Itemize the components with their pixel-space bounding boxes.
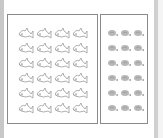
fish-outline-icon — [70, 85, 88, 100]
fish-outline-icon — [70, 25, 88, 40]
shell-icon — [132, 100, 145, 115]
fish-outline-icon — [16, 25, 34, 40]
fish-outline-icon — [70, 100, 88, 115]
left-edge-bar — [0, 0, 4, 138]
shell-icon — [119, 100, 132, 115]
fish-outline-icon — [52, 25, 70, 40]
fish-outline-icon — [52, 85, 70, 100]
shell-icon — [106, 85, 119, 100]
shell-icon — [119, 85, 132, 100]
shell-icon — [106, 70, 119, 85]
fish-panel — [7, 14, 98, 124]
fish-outline-icon — [52, 100, 70, 115]
fish-outline-icon — [16, 100, 34, 115]
shell-icon — [106, 55, 119, 70]
right-margin — [158, 0, 163, 138]
shell-icon — [132, 40, 145, 55]
fish-grid — [16, 25, 88, 115]
fish-outline-icon — [34, 70, 52, 85]
fish-outline-icon — [52, 40, 70, 55]
fish-outline-icon — [70, 55, 88, 70]
shell-icon — [119, 40, 132, 55]
shell-icon — [132, 55, 145, 70]
fish-outline-icon — [16, 70, 34, 85]
shell-panel — [100, 14, 148, 124]
shell-icon — [132, 85, 145, 100]
fish-outline-icon — [16, 40, 34, 55]
shell-icon — [119, 25, 132, 40]
shell-icon — [132, 25, 145, 40]
shell-icon — [119, 55, 132, 70]
shell-icon — [106, 100, 119, 115]
shell-icon — [106, 40, 119, 55]
shell-icon — [106, 25, 119, 40]
fish-outline-icon — [34, 25, 52, 40]
fish-outline-icon — [70, 70, 88, 85]
fish-outline-icon — [16, 85, 34, 100]
fish-outline-icon — [34, 40, 52, 55]
shell-icon — [119, 70, 132, 85]
fish-outline-icon — [52, 70, 70, 85]
fish-outline-icon — [34, 85, 52, 100]
fish-outline-icon — [52, 55, 70, 70]
fish-outline-icon — [16, 55, 34, 70]
fish-outline-icon — [70, 40, 88, 55]
fish-outline-icon — [34, 100, 52, 115]
shell-grid — [106, 25, 145, 115]
fish-outline-icon — [34, 55, 52, 70]
shell-icon — [132, 70, 145, 85]
